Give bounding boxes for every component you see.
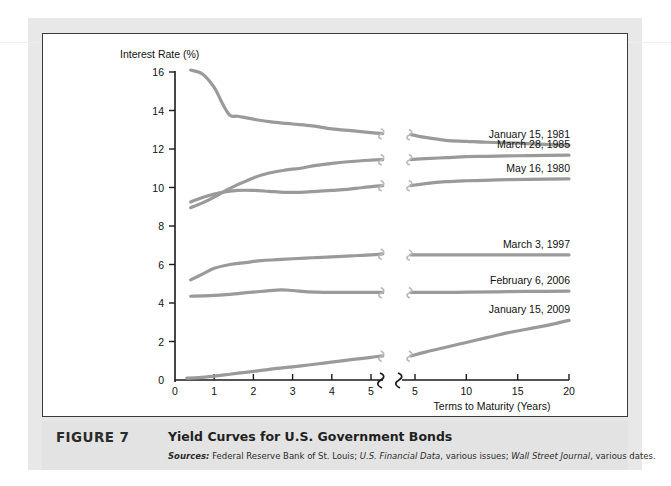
y-tick-label: 2 xyxy=(158,336,164,348)
y-axis-title: Interest Rate (%) xyxy=(120,48,199,60)
figure-number: FIGURE 7 xyxy=(56,429,168,445)
sources-prefix: Sources: xyxy=(168,451,209,461)
series-label-january-15-2009: January 15, 2009 xyxy=(489,303,570,315)
sources-italic-2: Wall Street Journal xyxy=(511,451,590,461)
curve-right-may-16-1980 xyxy=(411,179,569,186)
y-tick-label: 0 xyxy=(158,374,164,386)
x-tick-label-right: 10 xyxy=(460,385,472,397)
x-tick-label-right: 20 xyxy=(563,385,575,397)
y-tick-label: 14 xyxy=(152,105,164,117)
x-tick-label-right: 15 xyxy=(512,385,524,397)
axis-break-icon-right xyxy=(396,373,402,388)
y-tick-label: 12 xyxy=(152,143,164,155)
caption-row: FIGURE 7Yield Curves for U.S. Government… xyxy=(56,429,616,447)
y-tick-label: 16 xyxy=(152,66,164,78)
x-tick-label-right: 5 xyxy=(412,385,418,397)
series-label-may-16-1980: May 16, 1980 xyxy=(506,162,570,174)
sources-text-2: , various issues; xyxy=(440,451,511,461)
yield-curve-chart: 0246810121416Interest Rate (%)0123455101… xyxy=(0,0,671,486)
x-axis-title: Terms to Maturity (Years) xyxy=(434,400,551,412)
y-tick-label: 10 xyxy=(152,182,164,194)
sources-text-3: , various dates. xyxy=(590,451,656,461)
x-tick-label-left: 2 xyxy=(250,385,256,397)
figure-sources: Sources: Federal Reserve Bank of St. Lou… xyxy=(168,451,656,461)
curve-left-february-6-2006 xyxy=(191,290,383,296)
sources-text-1: Federal Reserve Bank of St. Louis; xyxy=(209,451,359,461)
series-label-march-3-1997: March 3, 1997 xyxy=(503,238,570,250)
curve-break-icon xyxy=(407,155,412,166)
curve-break-icon xyxy=(407,130,412,141)
curve-right-march-28-1985 xyxy=(411,155,569,159)
curve-left-march-28-1985 xyxy=(191,160,383,208)
series-label-march-28-1985: March 28, 1985 xyxy=(497,138,570,150)
x-tick-label-left: 0 xyxy=(172,385,178,397)
series-label-february-6-2006: February 6, 2006 xyxy=(490,274,570,286)
curve-right-february-6-2006 xyxy=(411,291,569,292)
sources-italic-1: U.S. Financial Data xyxy=(360,451,441,461)
y-tick-label: 8 xyxy=(158,220,164,232)
curve-left-january-15-1981 xyxy=(191,70,383,134)
figure-title: Yield Curves for U.S. Government Bonds xyxy=(168,429,452,444)
x-tick-label-left: 4 xyxy=(329,385,335,397)
curve-left-january-15-2009 xyxy=(187,356,383,378)
x-tick-label-left: 3 xyxy=(290,385,296,397)
curve-break-icon xyxy=(407,181,412,192)
x-tick-label-left: 1 xyxy=(211,385,217,397)
curve-left-may-16-1980 xyxy=(191,186,383,202)
curve-break-icon xyxy=(407,351,412,362)
curve-break-icon xyxy=(407,250,412,261)
page-root: 0246810121416Interest Rate (%)0123455101… xyxy=(0,0,671,486)
curve-break-icon xyxy=(407,287,412,298)
x-tick-label-left: 5 xyxy=(368,385,374,397)
curve-left-march-3-1997 xyxy=(191,254,383,280)
y-tick-label: 4 xyxy=(158,297,164,309)
figure-caption-band: FIGURE 7Yield Curves for U.S. Government… xyxy=(42,421,628,470)
y-tick-label: 6 xyxy=(158,259,164,271)
curve-right-january-15-2009 xyxy=(411,320,569,356)
